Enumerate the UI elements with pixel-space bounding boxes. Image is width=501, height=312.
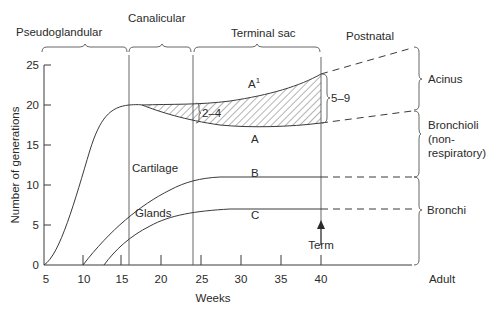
lung-development-diagram: Pseudoglandular Canalicular Terminal sac… [0, 0, 501, 312]
label-term: Term [308, 239, 334, 251]
phase-label-terminal-sac: Terminal sac [231, 27, 296, 39]
curve-b [83, 177, 321, 265]
term-arrow-icon [317, 220, 325, 229]
y-ticks [44, 65, 51, 225]
svg-text:15: 15 [116, 273, 129, 285]
phase-label-pseudoglandular: Pseudoglandular [16, 26, 102, 38]
label-non: (non- [428, 133, 455, 145]
svg-text:35: 35 [275, 273, 288, 285]
svg-text:25: 25 [26, 59, 39, 71]
svg-text:30: 30 [235, 273, 248, 285]
label-bronchi: Bronchi [427, 204, 466, 216]
phase-label-postnatal: Postnatal [346, 30, 394, 42]
dashed-a-postnatal [321, 111, 412, 123]
svg-text:25: 25 [196, 273, 209, 285]
svg-text:10: 10 [78, 273, 91, 285]
svg-text:15: 15 [26, 139, 39, 151]
label-bronchioli: Bronchioli [428, 119, 479, 131]
brace-5-9 [322, 74, 330, 123]
label-range-5-9: 5–9 [331, 92, 350, 104]
label-range-2-4: 2–4 [202, 107, 222, 119]
bracket-bronchioli [414, 111, 421, 177]
y-tick-labels: 0 5 10 15 20 25 [26, 59, 39, 271]
svg-text:20: 20 [155, 273, 168, 285]
label-c: C [251, 209, 259, 221]
brace-pseudoglandular [42, 44, 127, 52]
x-end-label-adult: Adult [429, 273, 456, 285]
svg-text:40: 40 [315, 273, 328, 285]
svg-text:0: 0 [33, 259, 39, 271]
svg-text:5: 5 [43, 273, 49, 285]
svg-text:5: 5 [33, 219, 39, 231]
x-axis-label: Weeks [196, 292, 231, 304]
label-glands: Glands [135, 207, 172, 219]
brace-canalicular [129, 44, 191, 52]
svg-text:10: 10 [26, 179, 39, 191]
brace-terminal-sac [194, 44, 320, 52]
bracket-bronchi [414, 177, 422, 265]
label-respiratory: respiratory) [428, 147, 486, 159]
label-a1: A1 [248, 76, 261, 90]
label-cartilage: Cartilage [132, 162, 178, 174]
dashed-a1-postnatal [321, 48, 412, 74]
bracket-acinus [414, 47, 422, 110]
x-ticks [83, 255, 321, 265]
phase-label-canalicular: Canalicular [128, 12, 186, 24]
label-b: B [251, 167, 259, 179]
label-a: A [251, 133, 259, 145]
svg-text:20: 20 [26, 99, 39, 111]
y-axis-label: Number of generations [9, 106, 21, 223]
label-acinus: Acinus [428, 73, 463, 85]
x-tick-labels: 5 10 15 20 25 30 35 40 [43, 273, 328, 285]
